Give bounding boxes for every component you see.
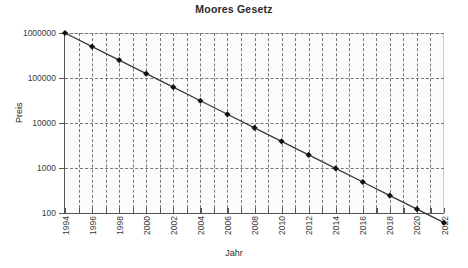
gridline-vertical: [322, 33, 323, 213]
x-axis-tick: [444, 208, 445, 213]
gridline-vertical: [255, 33, 256, 213]
gridline-vertical: [376, 33, 377, 213]
y-axis-title: Preis: [14, 102, 24, 123]
gridline-vertical: [268, 33, 269, 213]
x-axis-tick-label: 1994: [61, 216, 71, 235]
x-axis-title: Jahr: [0, 248, 468, 258]
gridline-vertical: [160, 33, 161, 213]
chart-container: Moores Gesetz 1001000100001000001000000 …: [0, 0, 468, 268]
gridline-vertical: [227, 33, 228, 213]
gridline-vertical: [363, 33, 364, 213]
x-axis-tick-label: 2018: [385, 216, 395, 235]
y-axis-tick-label: 1000000: [23, 28, 56, 38]
x-axis-tick-label: 2002: [169, 216, 179, 235]
gridline-vertical: [295, 33, 296, 213]
x-axis-tick-label: 1996: [88, 216, 98, 235]
gridline-vertical: [146, 33, 147, 213]
gridline-vertical: [133, 33, 134, 213]
x-axis-tick-label: 2004: [196, 216, 206, 235]
gridline-vertical: [214, 33, 215, 213]
y-axis-line: [64, 32, 65, 214]
gridline-vertical: [92, 33, 93, 213]
gridline-vertical: [79, 33, 80, 213]
x-axis-tick-label: 2000: [142, 216, 152, 235]
gridline-vertical: [282, 33, 283, 213]
gridline-vertical: [241, 33, 242, 213]
y-axis-tick-label: 10000: [32, 118, 56, 128]
y-axis-tick-label: 100: [42, 208, 56, 218]
x-axis-tick-label: 1998: [115, 216, 125, 235]
gridline-vertical: [106, 33, 107, 213]
gridline-vertical: [349, 33, 350, 213]
x-axis-tick-label: 2014: [331, 216, 341, 235]
y-axis-tick-label: 1000: [37, 163, 56, 173]
x-axis-tick-label: 2010: [277, 216, 287, 235]
gridline-vertical: [336, 33, 337, 213]
gridline-vertical: [390, 33, 391, 213]
gridline-vertical: [119, 33, 120, 213]
x-axis-tick-label: 2020: [412, 216, 422, 235]
gridline-vertical: [430, 33, 431, 213]
x-axis-tick-label: 2008: [250, 216, 260, 235]
x-axis-tick-label: 2022: [440, 216, 450, 235]
gridline-vertical: [187, 33, 188, 213]
y-axis-tick-label: 100000: [28, 73, 56, 83]
gridline-vertical: [417, 33, 418, 213]
gridline-vertical: [309, 33, 310, 213]
x-axis-line: [64, 213, 444, 214]
gridline-vertical: [403, 33, 404, 213]
x-axis-tick-label: 2012: [304, 216, 314, 235]
x-axis-tick-label: 2016: [358, 216, 368, 235]
chart-title: Moores Gesetz: [0, 3, 468, 15]
gridline-vertical: [173, 33, 174, 213]
x-axis-tick-label: 2006: [223, 216, 233, 235]
gridline-vertical: [200, 33, 201, 213]
